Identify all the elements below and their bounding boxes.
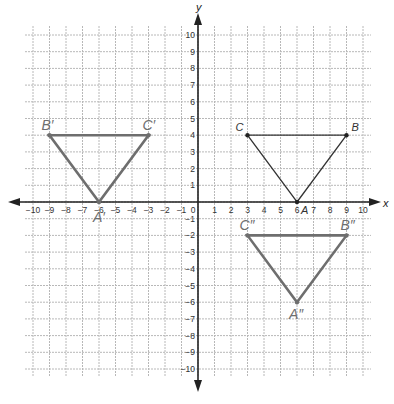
x-tick-label: −5 bbox=[111, 205, 121, 215]
y-tick-label: 7 bbox=[190, 80, 195, 90]
x-tick-label: 8 bbox=[328, 205, 333, 215]
x-tick-label: −2 bbox=[160, 205, 170, 215]
y-tick-label: 1 bbox=[190, 180, 195, 190]
x-tick-label: 2 bbox=[229, 205, 234, 215]
vertex-point bbox=[47, 133, 51, 137]
x-tick-label: 10 bbox=[358, 205, 368, 215]
coordinate-plane: −10−9−8−7−6−5−4−3−2−10123456789101098765… bbox=[0, 0, 394, 404]
vertex-point bbox=[146, 133, 150, 137]
y-tick-label: −10 bbox=[181, 364, 196, 374]
vertex-point bbox=[344, 233, 348, 237]
vertex-point bbox=[295, 200, 299, 204]
vertex-label: C″ bbox=[240, 217, 256, 233]
vertex-point bbox=[97, 200, 101, 204]
triangle-abc-image: A″B″C″ bbox=[240, 217, 356, 322]
y-tick-label: 6 bbox=[190, 97, 195, 107]
y-tick-label: 8 bbox=[190, 63, 195, 73]
x-tick-label: −4 bbox=[127, 205, 137, 215]
x-tick-label: 9 bbox=[344, 205, 349, 215]
y-tick-label: −4 bbox=[185, 264, 195, 274]
y-axis-down-arrow-icon bbox=[194, 380, 202, 392]
y-tick-label: −2 bbox=[185, 230, 195, 240]
y-tick-label: 2 bbox=[190, 164, 195, 174]
vertex-point bbox=[295, 300, 299, 304]
x-tick-label: 1 bbox=[212, 205, 217, 215]
vertex-label: C′ bbox=[143, 117, 157, 133]
y-tick-label: −9 bbox=[185, 347, 195, 357]
vertex-point bbox=[245, 133, 249, 137]
y-axis-up-arrow-icon bbox=[194, 13, 202, 25]
triangles: ABCA′B′C′A″B″C″ bbox=[42, 117, 359, 322]
x-tick-label: −7 bbox=[78, 205, 88, 215]
y-tick-label: −8 bbox=[185, 331, 195, 341]
y-tick-label: −3 bbox=[185, 247, 195, 257]
y-axis-label: y bbox=[195, 1, 203, 13]
x-tick-label: 3 bbox=[245, 205, 250, 215]
y-tick-label: 3 bbox=[190, 147, 195, 157]
y-tick-label: −6 bbox=[185, 297, 195, 307]
y-tick-label: 9 bbox=[190, 47, 195, 57]
vertex-label: C bbox=[236, 121, 244, 133]
x-axis-right-arrow-icon bbox=[369, 198, 381, 206]
y-tick-label: 4 bbox=[190, 130, 195, 140]
y-tick-label: −7 bbox=[185, 314, 195, 324]
x-tick-label: 7 bbox=[311, 205, 316, 215]
vertex-label: B bbox=[352, 121, 359, 133]
vertex-label: A″ bbox=[288, 306, 304, 322]
y-tick-label: 10 bbox=[186, 30, 196, 40]
x-tick-label: −9 bbox=[45, 205, 55, 215]
x-tick-label: −8 bbox=[61, 205, 71, 215]
y-tick-label: 5 bbox=[190, 114, 195, 124]
y-tick-label: −1 bbox=[185, 214, 195, 224]
vertex-point bbox=[245, 233, 249, 237]
x-axis-left-arrow-icon bbox=[8, 198, 20, 206]
vertex-label: A′ bbox=[92, 209, 106, 225]
vertex-label: B″ bbox=[341, 217, 356, 233]
vertex-label: A bbox=[300, 204, 308, 216]
x-tick-label: −10 bbox=[26, 205, 41, 215]
x-tick-label: −3 bbox=[144, 205, 154, 215]
vertex-point bbox=[344, 133, 348, 137]
x-tick-label: 5 bbox=[278, 205, 283, 215]
x-tick-label: 6 bbox=[295, 205, 300, 215]
x-tick-label: 4 bbox=[262, 205, 267, 215]
y-tick-label: −5 bbox=[185, 281, 195, 291]
vertex-label: B′ bbox=[42, 117, 55, 133]
x-axis-label: x bbox=[382, 197, 389, 209]
